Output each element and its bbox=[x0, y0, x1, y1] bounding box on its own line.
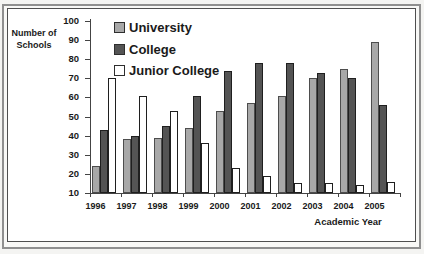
x-axis-tick-mark bbox=[307, 194, 308, 197]
y-axis-tick-mark bbox=[85, 136, 90, 137]
bar-college-1998 bbox=[162, 126, 170, 193]
y-axis-tick-label: 80 bbox=[40, 53, 79, 65]
legend: UniversityCollegeJunior College bbox=[114, 17, 219, 82]
bar-university-2004 bbox=[340, 69, 348, 193]
bar-university-2002 bbox=[278, 96, 286, 193]
y-axis-tick-label: 10 bbox=[40, 187, 79, 199]
x-axis-tick-mark bbox=[183, 194, 184, 197]
y-axis-tick-label: 50 bbox=[40, 111, 79, 123]
y-axis-tick-mark bbox=[85, 155, 90, 156]
bar-college-2005 bbox=[379, 105, 387, 193]
y-axis-tick-mark bbox=[85, 40, 90, 41]
x-axis-tick-mark bbox=[121, 194, 122, 197]
y-axis-tick-label: 60 bbox=[40, 91, 79, 103]
chart-figure: Number of Schools 102030405060708090100 … bbox=[0, 0, 424, 254]
x-axis-tick-mark bbox=[338, 194, 339, 197]
legend-item-junior-college: Junior College bbox=[114, 60, 219, 82]
y-axis-tick-mark bbox=[85, 78, 90, 79]
bar-junior-college-2002 bbox=[294, 183, 302, 193]
x-axis-tick-mark bbox=[152, 194, 153, 197]
x-axis-category-label: 1997 bbox=[111, 201, 142, 211]
bar-college-2001 bbox=[255, 63, 263, 193]
bar-junior-college-2001 bbox=[263, 176, 271, 193]
x-axis-category-label: 1999 bbox=[173, 201, 204, 211]
bar-university-2000 bbox=[216, 111, 224, 193]
bar-junior-college-1997 bbox=[139, 96, 147, 193]
legend-swatch-college bbox=[114, 44, 125, 55]
y-axis-tick-mark bbox=[85, 117, 90, 118]
bar-college-2003 bbox=[317, 73, 325, 193]
y-axis-tick-label: 20 bbox=[40, 168, 79, 180]
x-axis-category-label: 2001 bbox=[235, 201, 266, 211]
x-axis-category-label: 2005 bbox=[359, 201, 390, 211]
y-axis-tick-mark bbox=[85, 174, 90, 175]
bar-university-1999 bbox=[185, 128, 193, 193]
x-axis-tick-mark bbox=[90, 194, 91, 197]
bar-college-2000 bbox=[224, 71, 232, 193]
bar-university-1997 bbox=[123, 139, 131, 193]
bar-university-1996 bbox=[92, 166, 100, 193]
x-axis-category-label: 2003 bbox=[297, 201, 328, 211]
bar-junior-college-2003 bbox=[325, 183, 333, 193]
y-axis-tick-label: 100 bbox=[40, 15, 79, 27]
x-axis-category-label: 2002 bbox=[266, 201, 297, 211]
y-axis-tick-mark bbox=[85, 97, 90, 98]
x-axis-title: Academic Year bbox=[298, 216, 398, 227]
x-axis-tick-mark bbox=[214, 194, 215, 197]
bar-university-1998 bbox=[154, 138, 162, 193]
legend-label-junior-college: Junior College bbox=[129, 63, 219, 78]
legend-item-college: College bbox=[114, 39, 219, 61]
bar-college-2004 bbox=[348, 78, 356, 193]
legend-swatch-junior-college bbox=[114, 65, 125, 76]
x-axis-category-label: 1998 bbox=[142, 201, 173, 211]
y-axis-tick-mark bbox=[85, 59, 90, 60]
bar-university-2005 bbox=[371, 42, 379, 193]
plot-layer: Number of Schools 102030405060708090100 … bbox=[0, 0, 424, 254]
legend-item-university: University bbox=[114, 17, 219, 39]
legend-label-college: College bbox=[129, 42, 176, 57]
x-axis-tick-mark bbox=[400, 194, 401, 197]
bar-junior-college-1996 bbox=[108, 78, 116, 193]
x-axis-category-label: 2000 bbox=[204, 201, 235, 211]
bar-junior-college-2004 bbox=[356, 185, 364, 193]
bar-college-1997 bbox=[131, 136, 139, 193]
x-axis-tick-mark bbox=[369, 194, 370, 197]
y-axis-tick-label: 30 bbox=[40, 149, 79, 161]
bar-college-1999 bbox=[193, 96, 201, 193]
y-axis-line bbox=[90, 19, 91, 194]
legend-swatch-university bbox=[114, 22, 125, 33]
legend-label-university: University bbox=[129, 20, 192, 35]
x-axis-category-label: 2004 bbox=[328, 201, 359, 211]
bar-university-2003 bbox=[309, 78, 317, 193]
bar-college-1996 bbox=[100, 130, 108, 193]
x-axis-category-label: 1996 bbox=[80, 201, 111, 211]
bar-university-2001 bbox=[247, 103, 255, 193]
x-axis-tick-mark bbox=[276, 194, 277, 197]
bar-junior-college-2000 bbox=[232, 168, 240, 193]
x-axis-tick-mark bbox=[245, 194, 246, 197]
bar-junior-college-1999 bbox=[201, 143, 209, 193]
y-axis-tick-label: 40 bbox=[40, 130, 79, 142]
bar-junior-college-2005 bbox=[387, 182, 395, 193]
y-axis-tick-label: 70 bbox=[40, 72, 79, 84]
bar-college-2002 bbox=[286, 63, 294, 193]
y-axis-tick-mark bbox=[85, 21, 90, 22]
bar-junior-college-1998 bbox=[170, 111, 178, 193]
y-axis-tick-label: 90 bbox=[40, 34, 79, 46]
